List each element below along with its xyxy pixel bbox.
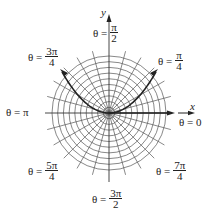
label-7pi-over-4: θ = 7π4: [156, 160, 186, 181]
label-5pi-over-4: θ = 5π4: [28, 160, 58, 181]
label-3pi-over-2: θ = 3π2: [92, 188, 122, 209]
y-axis-label: y: [101, 6, 106, 18]
label-pi-over-2: θ = π2: [93, 22, 118, 43]
x-axis-arrow-head-icon: [167, 111, 175, 116]
x-axis-label: x: [190, 100, 195, 112]
label-pi: θ = π: [6, 106, 29, 118]
label-3pi-over-4: θ = 3π4: [28, 46, 58, 67]
label-pi-over-4: θ = π4: [158, 50, 183, 71]
label-zero: θ = 0: [179, 116, 201, 128]
